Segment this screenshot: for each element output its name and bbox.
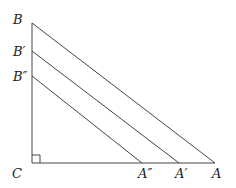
right-angle-marker <box>32 155 40 163</box>
segment-BA <box>32 23 215 163</box>
label-A-prime: A′ <box>174 166 187 181</box>
label-A: A <box>211 166 221 181</box>
triangle-diagram: B B′ B″ C A″ A′ A <box>0 0 236 188</box>
segment-B1A1 <box>32 51 179 163</box>
label-C: C <box>12 166 22 181</box>
label-A-double-prime: A″ <box>137 166 152 181</box>
label-B: B <box>12 12 23 27</box>
segment-B2A2 <box>32 76 142 163</box>
label-B-double-prime: B″ <box>12 69 28 84</box>
label-B-prime: B′ <box>12 44 26 59</box>
